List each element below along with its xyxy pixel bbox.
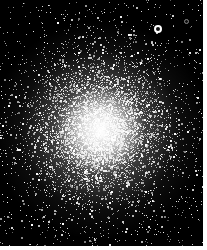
bright-star <box>154 25 162 33</box>
star-field <box>0 0 203 246</box>
faint-star <box>184 19 189 24</box>
star-cluster-photo <box>0 0 203 246</box>
